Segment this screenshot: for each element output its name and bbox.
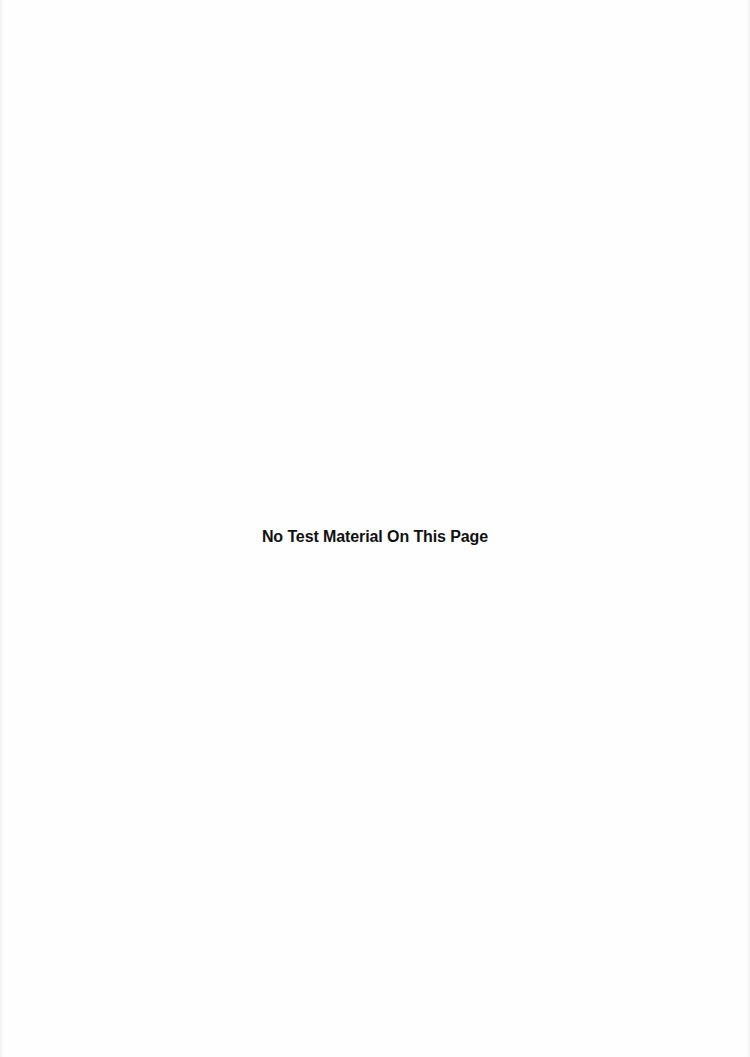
no-test-material-notice: No Test Material On This Page	[0, 526, 750, 548]
blank-exam-page: No Test Material On This Page	[0, 0, 750, 1057]
